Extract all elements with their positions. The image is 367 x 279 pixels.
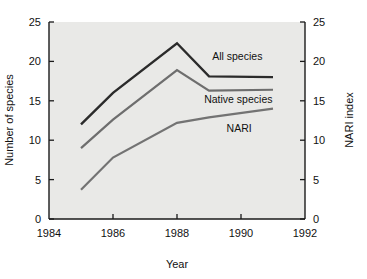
- plot-area-background: [49, 22, 305, 219]
- y-tick-label-right: 10: [313, 134, 325, 146]
- x-tick-label: 1984: [37, 227, 61, 239]
- x-tick-label: 1990: [229, 227, 253, 239]
- y-tick-label-left: 15: [29, 95, 41, 107]
- y-tick-label-right: 15: [313, 95, 325, 107]
- series-label-all-species: All species: [212, 50, 262, 62]
- x-tick-label: 1992: [293, 227, 317, 239]
- series-label-native-species: Native species: [204, 93, 272, 105]
- y-tick-label-right: 0: [313, 213, 319, 225]
- series-label-nari: NARI: [227, 122, 252, 134]
- x-tick-label: 1988: [165, 227, 189, 239]
- y-axis-left-title: Number of species: [3, 74, 15, 166]
- line-chart: 0510152025051015202519841986198819901992…: [0, 0, 367, 279]
- y-tick-label-right: 25: [313, 16, 325, 28]
- x-axis-title: Year: [166, 258, 189, 270]
- y-tick-label-left: 5: [35, 174, 41, 186]
- y-tick-label-left: 0: [35, 213, 41, 225]
- y-tick-label-left: 20: [29, 55, 41, 67]
- x-tick-label: 1986: [101, 227, 125, 239]
- y-tick-label-left: 10: [29, 134, 41, 146]
- y-tick-label-right: 20: [313, 55, 325, 67]
- y-tick-label-right: 5: [313, 174, 319, 186]
- y-axis-right-title: NARI index: [343, 92, 355, 148]
- y-tick-label-left: 25: [29, 16, 41, 28]
